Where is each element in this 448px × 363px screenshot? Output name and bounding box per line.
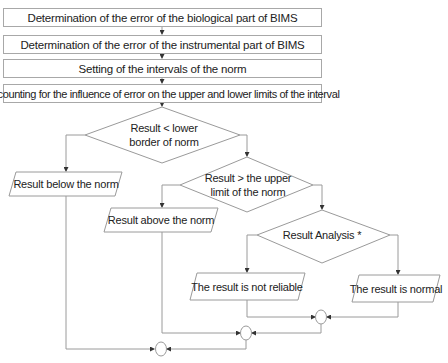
decision-upper-limit: Result > the upper limit of the norm (205, 171, 292, 199)
step-label: Determination of the error of the instru… (20, 39, 304, 51)
output-below-norm: Result below the norm (13, 177, 118, 191)
decision-line2: border of norm (129, 135, 198, 149)
decision-line1: Result Analysis * (283, 228, 362, 242)
decision-lower-border: Result < lower border of norm (129, 121, 198, 149)
output-not-reliable: The result is not reliable (191, 280, 303, 294)
decision-line2: limit of the norm (205, 185, 292, 199)
decision-result-analysis: Result Analysis * (283, 228, 362, 242)
output-normal: The result is normal (350, 282, 443, 296)
step-accounting-influence: Accounting for the influence of error on… (3, 84, 322, 103)
step-label: Determination of the error of the biolog… (28, 12, 298, 24)
step-label: Accounting for the influence of error on… (0, 88, 339, 100)
step-label: Setting of the intervals of the norm (79, 63, 247, 75)
decision-line1: Result < lower (129, 121, 198, 135)
decision-line1: Result > the upper (205, 171, 292, 185)
step-biological-error: Determination of the error of the biolog… (3, 8, 322, 27)
step-instrumental-error: Determination of the error of the instru… (3, 35, 322, 54)
output-above-norm: Result above the norm (108, 213, 214, 227)
step-setting-intervals: Setting of the intervals of the norm (3, 59, 322, 78)
